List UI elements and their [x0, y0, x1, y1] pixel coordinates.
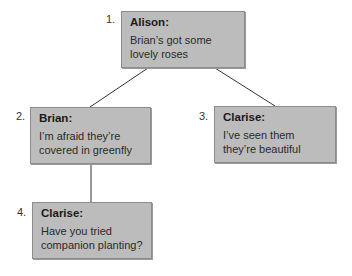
node-speaker: Clarise: [223, 110, 335, 124]
connector-1-2 [90, 68, 148, 107]
node-4-box: Clarise: Have you tried companion planti… [32, 202, 152, 259]
node-message-line: Brian’s got some [130, 33, 240, 47]
node-message-line: they’re beautiful [223, 142, 333, 156]
connector-1-3 [215, 68, 275, 106]
node-message-line: lovely roses [130, 47, 240, 61]
node-1-box: Alison: Brian’s got some lovely roses [121, 11, 245, 68]
node-number: 2. [16, 110, 25, 122]
node-speaker: Clarise: [41, 206, 151, 220]
node-message-line: I’m afraid they’re [39, 129, 149, 143]
node-3-box: Clarise: I’ve seen them they’re beautifu… [214, 106, 336, 163]
node-number: 1. [106, 13, 115, 25]
node-message-line: companion planting? [41, 238, 151, 252]
node-message-line: I’ve seen them [223, 128, 333, 142]
node-message-line: Have you tried [41, 224, 151, 238]
node-speaker: Alison: [130, 15, 244, 29]
node-number: 3. [199, 110, 208, 122]
node-message-line: covered in greenfly [39, 143, 149, 157]
node-2-box: Brian: I’m afraid they’re covered in gre… [30, 107, 151, 164]
node-number: 4. [17, 206, 26, 218]
node-speaker: Brian: [39, 111, 150, 125]
